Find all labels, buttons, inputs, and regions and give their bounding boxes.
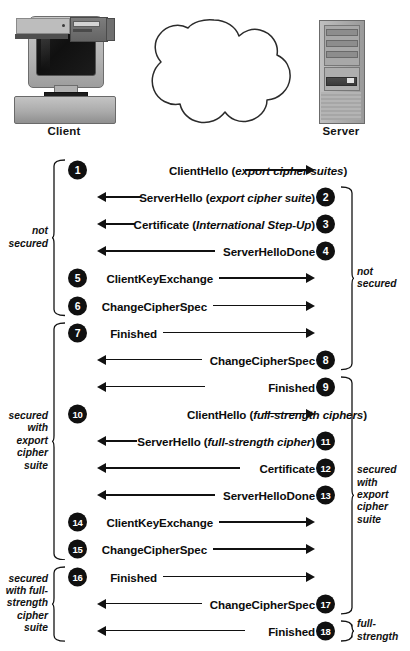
arrow-head	[97, 490, 106, 500]
message-label: ServerHelloDone	[223, 245, 315, 258]
arrow-to-client-icon	[97, 463, 240, 473]
message-label: ChangeCipherSpec	[102, 543, 207, 556]
arrow-head	[97, 219, 106, 229]
floppy-slot-icon	[73, 21, 100, 27]
section-brace	[52, 566, 65, 642]
arrow-shaft	[104, 223, 135, 225]
server-label: Server	[313, 125, 369, 137]
message-label: Finished	[268, 624, 315, 637]
arrow-head	[97, 463, 106, 473]
arrow-to-server-icon	[213, 544, 315, 554]
arrow-shaft	[245, 169, 308, 171]
drive-slot-secondary	[73, 29, 92, 32]
diagram-canvas: Client Server 1ClientHello (export ciphe…	[0, 0, 410, 651]
section-brace	[341, 186, 354, 371]
arrow-head	[306, 409, 315, 419]
arrow-to-client-icon	[97, 490, 215, 500]
cloud-icon	[140, 16, 292, 130]
arrow-shaft	[104, 494, 215, 496]
arrow-to-client-icon	[97, 382, 205, 392]
message-number-badge: 15	[68, 540, 87, 559]
message-label: ChangeCipherSpec	[102, 299, 207, 312]
arrow-to-client-icon	[97, 626, 245, 636]
arrow-shaft	[219, 521, 308, 523]
desktop-computer-icon	[14, 16, 114, 122]
arrow-head	[306, 517, 315, 527]
server-tower-icon	[313, 20, 369, 122]
client-label: Client	[14, 125, 114, 137]
computer-base-unit	[14, 96, 116, 124]
brace-annotation-label: full- strength	[357, 618, 409, 643]
arrow-head	[306, 328, 315, 338]
tower-bay-3	[326, 51, 358, 58]
arrow-to-client-icon	[97, 436, 137, 446]
arrow-to-client-icon	[97, 599, 202, 609]
arrow-to-server-icon	[219, 517, 315, 527]
tower-vent-grille	[321, 92, 361, 120]
arrow-to-server-icon	[263, 409, 315, 419]
endpoints-illustration: Client Server	[0, 0, 410, 152]
message-label: ClientKeyExchange	[106, 272, 213, 285]
arrow-to-server-icon	[213, 301, 315, 311]
message-number-badge: 2	[316, 188, 335, 207]
brace-annotation-label: not secured	[357, 266, 409, 291]
section-brace	[341, 376, 354, 615]
arrow-shaft	[219, 277, 308, 279]
arrow-head	[97, 246, 106, 256]
base-lower-strip	[15, 34, 68, 39]
message-label: Certificate	[259, 462, 315, 475]
message-label-emphasis: International Step-Up	[196, 218, 311, 231]
arrow-head	[306, 301, 315, 311]
section-brace	[341, 620, 354, 642]
message-number-badge: 16	[68, 567, 87, 586]
power-led-icon	[62, 24, 65, 27]
message-label: ChangeCipherSpec	[210, 597, 315, 610]
handshake-flow: 1ClientHello (export cipher suites)2Serv…	[0, 152, 410, 651]
arrow-to-client-icon	[97, 355, 202, 365]
arrow-to-server-icon	[163, 572, 315, 582]
arrow-head	[97, 626, 106, 636]
message-label: Certificate (International Step-Up)	[134, 218, 315, 231]
arrow-head	[97, 382, 106, 392]
arrow-shaft	[213, 305, 308, 307]
message-label: Finished	[110, 570, 157, 583]
arrow-head	[97, 599, 106, 609]
message-number-badge: 4	[316, 242, 335, 261]
brace-annotation-label: secured with export cipher suite	[0, 410, 48, 472]
brace-annotation-label: secured with full- strength cipher suite	[0, 573, 48, 635]
message-number-badge: 12	[316, 459, 335, 478]
arrow-head	[97, 355, 106, 365]
message-number-badge: 6	[68, 296, 87, 315]
arrow-shaft	[163, 576, 308, 578]
message-label: ServerHello (full-strength cipher)	[137, 435, 315, 448]
message-label: ServerHelloDone	[223, 489, 315, 502]
message-label: ChangeCipherSpec	[210, 353, 315, 366]
arrow-head	[97, 192, 106, 202]
arrow-shaft	[104, 603, 202, 605]
brace-annotation-label: not secured	[0, 225, 48, 250]
arrow-head	[306, 273, 315, 283]
arrow-shaft	[213, 548, 308, 550]
arrow-to-server-icon	[219, 273, 315, 283]
message-number-badge: 10	[68, 404, 87, 423]
message-label-emphasis: export cipher suite	[209, 191, 311, 204]
arrow-shaft	[104, 359, 202, 361]
message-number-badge: 9	[316, 377, 335, 396]
message-number-badge: 11	[316, 432, 335, 451]
tower-bay-1	[326, 29, 358, 36]
message-label-emphasis: full-strength cipher	[208, 435, 312, 448]
arrow-to-client-icon	[97, 192, 141, 202]
arrow-shaft	[104, 386, 205, 388]
arrow-to-server-icon	[245, 165, 315, 175]
section-brace	[52, 322, 65, 561]
tower-bay-2	[326, 40, 358, 47]
arrow-head	[97, 436, 106, 446]
message-label: Finished	[110, 326, 157, 339]
arrow-shaft	[163, 332, 308, 334]
message-number-badge: 1	[68, 161, 87, 180]
arrow-shaft	[104, 440, 137, 442]
arrow-head	[306, 165, 315, 175]
message-number-badge: 3	[316, 215, 335, 234]
arrow-head	[306, 572, 315, 582]
arrow-to-client-icon	[97, 246, 215, 256]
